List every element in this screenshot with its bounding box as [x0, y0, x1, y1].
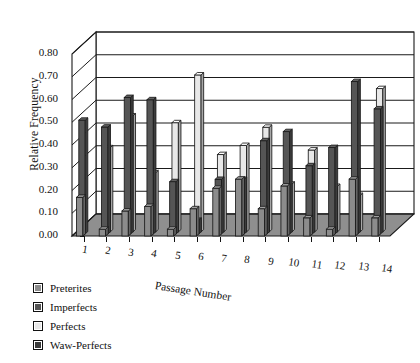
x-axis-tick-mark: [356, 237, 357, 242]
x-axis-tick-label: 14: [378, 261, 396, 275]
legend-label: Perfects: [50, 320, 85, 332]
x-axis-tick-mark: [174, 237, 175, 242]
legend-label: Preterites: [50, 282, 92, 294]
x-axis-tick-mark: [84, 237, 85, 242]
x-axis-tick-label: 4: [146, 246, 164, 260]
legend-item[interactable]: Perfects: [33, 316, 111, 335]
y-axis-tick-label: 0.00: [24, 229, 58, 240]
y-axis-tick-label: 0.70: [24, 70, 58, 81]
x-axis-tick-mark: [129, 237, 130, 242]
y-axis-tick-label: 0.40: [24, 138, 58, 149]
x-axis-tick-mark: [333, 237, 334, 242]
x-axis-tick-mark: [288, 237, 289, 242]
y-axis-tick-label: 0.80: [24, 47, 58, 58]
x-axis-tick-label: 6: [192, 249, 210, 263]
x-axis-tick-mark: [197, 237, 198, 242]
x-axis-tick-mark: [106, 237, 107, 242]
y-axis-tick-label: 0.10: [24, 206, 58, 217]
y-axis-tick-label: 0.20: [24, 184, 58, 195]
legend-item[interactable]: Imperfects: [33, 297, 111, 316]
legend-swatch-icon: [33, 283, 43, 293]
x-axis-tick-label: 7: [215, 251, 233, 265]
y-axis-tick-label: 0.30: [24, 161, 58, 172]
x-axis-tick-label: 11: [308, 256, 326, 270]
x-axis-tick-mark: [265, 237, 266, 242]
x-axis-tick-label: 3: [122, 245, 140, 259]
x-axis-tick-mark: [311, 237, 312, 242]
chart-figure: Relative Frequency 0.000.100.200.300.400…: [0, 0, 420, 363]
legend-swatch-icon: [33, 321, 43, 331]
x-axis-tick-label: 12: [332, 258, 350, 272]
plot-svg: [63, 28, 415, 250]
y-axis-tick-label: 0.50: [24, 115, 58, 126]
legend-swatch-icon: [33, 302, 43, 312]
x-axis-tick-mark: [220, 237, 221, 242]
legend-label: Waw-Perfects: [50, 339, 111, 351]
legend-item[interactable]: Preterites: [33, 278, 111, 297]
x-axis-tick-mark: [243, 237, 244, 242]
x-axis-title: Passage Number: [154, 279, 232, 303]
x-axis-tick-label: 5: [169, 248, 187, 262]
legend-label: Imperfects: [50, 301, 97, 313]
legend-swatch-icon: [33, 340, 43, 350]
legend-item[interactable]: Waw-Perfects: [33, 335, 111, 354]
y-axis-tick-label: 0.60: [24, 93, 58, 104]
x-axis-tick-label: 13: [355, 259, 373, 273]
x-axis-tick-mark: [379, 237, 380, 242]
x-axis-tick-label: 9: [262, 253, 280, 267]
x-axis-tick-label: 10: [285, 255, 303, 269]
x-axis-tick-label: 8: [239, 252, 257, 266]
x-axis-tick-label: 2: [99, 243, 117, 257]
plot-area: [63, 28, 415, 250]
chart-legend: PreteritesImperfectsPerfectsWaw-Perfects: [33, 278, 111, 354]
x-axis-tick-label: 1: [76, 242, 94, 256]
x-axis-tick-mark: [152, 237, 153, 242]
